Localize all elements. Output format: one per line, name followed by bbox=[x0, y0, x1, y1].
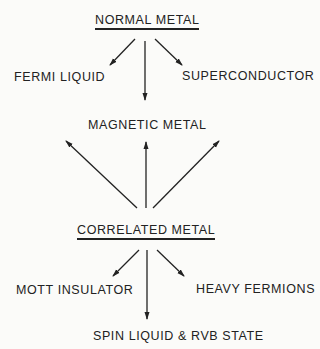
node-correlated-metal: CORRELATED METAL bbox=[77, 223, 215, 240]
arrow-correlated-to-magnetic-right bbox=[153, 141, 219, 208]
node-mott-insulator: MOTT INSULATOR bbox=[16, 283, 133, 297]
phase-diagram: NORMAL METAL FERMI LIQUID SUPERCONDUCTOR… bbox=[0, 0, 320, 349]
node-normal-metal: NORMAL METAL bbox=[95, 13, 199, 30]
node-spin-liquid-rvb: SPIN LIQUID & RVB STATE bbox=[93, 329, 264, 343]
node-fermi-liquid: FERMI LIQUID bbox=[14, 70, 105, 84]
arrow-correlated-to-magnetic-left bbox=[66, 141, 137, 208]
node-heavy-fermions: HEAVY FERMIONS bbox=[196, 282, 315, 296]
arrow-correlated-to-mott bbox=[113, 250, 139, 276]
arrow-normal-to-fermi bbox=[110, 39, 135, 65]
node-magnetic-metal: MAGNETIC METAL bbox=[88, 118, 207, 132]
arrow-normal-to-superconductor bbox=[155, 39, 182, 65]
node-superconductor: SUPERCONDUCTOR bbox=[182, 69, 314, 83]
arrow-correlated-to-heavy-fermions bbox=[157, 250, 184, 276]
